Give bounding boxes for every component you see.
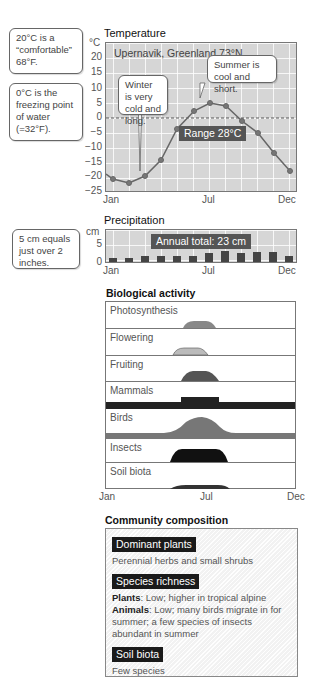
x-label-dec: Dec	[287, 492, 305, 502]
callout-freezing: 0°C is the freezing point of water (=32°…	[9, 83, 83, 141]
temperature-title: Temperature	[104, 27, 166, 39]
community-box: Dominant plants Perennial herbs and smal…	[105, 528, 298, 677]
precipitation-title: Precipitation	[104, 214, 165, 226]
ytick: 20	[80, 52, 102, 62]
ytick: −25	[80, 186, 102, 196]
x-label-jul: Jul	[202, 266, 215, 276]
bio-row-flowering: Flowering	[106, 329, 295, 356]
ytick: 5	[80, 98, 102, 108]
callout-summer: Summer is cool and short.	[207, 55, 277, 83]
range-label: Range 28°C	[179, 126, 246, 141]
x-label-jul: Jul	[202, 195, 215, 205]
bio-row-mammals: Mammals	[106, 382, 295, 409]
ytick: 5	[80, 239, 102, 249]
ytick: −15	[80, 157, 102, 167]
bio-row-photosynthesis: Photosynthesis	[106, 302, 295, 329]
x-label-jan: Jan	[99, 492, 115, 502]
ytick: −5	[80, 127, 102, 137]
dominant-plants-text: Perennial herbs and small shrubs	[112, 555, 291, 567]
animals-label: Animals	[112, 604, 149, 615]
precipitation-plot: Annual total: 23 cm	[105, 229, 297, 263]
x-label-jan: Jan	[103, 266, 119, 276]
soil-biota-text: Few species	[112, 665, 291, 677]
bio-row-insects: Insects	[106, 439, 295, 463]
plants-label: Plants	[112, 592, 141, 603]
ytick: 10	[80, 83, 102, 93]
bio-activity-chart: Photosynthesis Flowering Fruiting Mammal…	[105, 301, 296, 489]
species-richness-heading: Species richness	[112, 574, 199, 589]
x-label-jul: Jul	[200, 492, 213, 502]
temperature-plot: Upernavik, Greenland 73°N Winter is very…	[105, 42, 297, 192]
community-title: Community composition	[105, 514, 228, 526]
x-label-dec: Dec	[278, 266, 296, 276]
precipitation-unit: cm	[86, 226, 99, 237]
annual-total-label: Annual total: 23 cm	[151, 234, 251, 249]
soil-biota-heading: Soil biota	[112, 647, 163, 662]
ytick: 15	[80, 67, 102, 77]
bio-row-soil-biota: Soil biota	[106, 463, 295, 490]
bio-activity-title: Biological activity	[106, 287, 195, 299]
x-label-dec: Dec	[278, 195, 296, 205]
species-richness-text: Plants: Low; higher in tropical alpine A…	[112, 592, 291, 640]
temperature-unit: °C	[89, 37, 100, 48]
callout-comfortable: 20°C is a “comfortable” 68°F.	[9, 28, 83, 74]
ytick: −10	[80, 142, 102, 152]
ytick: −20	[80, 171, 102, 181]
callout-precip: 5 cm equals just over 2 inches.	[12, 229, 80, 269]
ytick: 0	[80, 257, 102, 267]
x-label-jan: Jan	[103, 195, 119, 205]
plants-text: : Low; higher in tropical alpine	[141, 592, 267, 603]
ytick: 0	[80, 112, 102, 122]
bio-row-fruiting: Fruiting	[106, 356, 295, 382]
bio-row-birds: Birds	[106, 409, 295, 439]
dominant-plants-heading: Dominant plants	[112, 537, 196, 552]
callout-winter: Winter is very cold and long.	[118, 75, 168, 115]
